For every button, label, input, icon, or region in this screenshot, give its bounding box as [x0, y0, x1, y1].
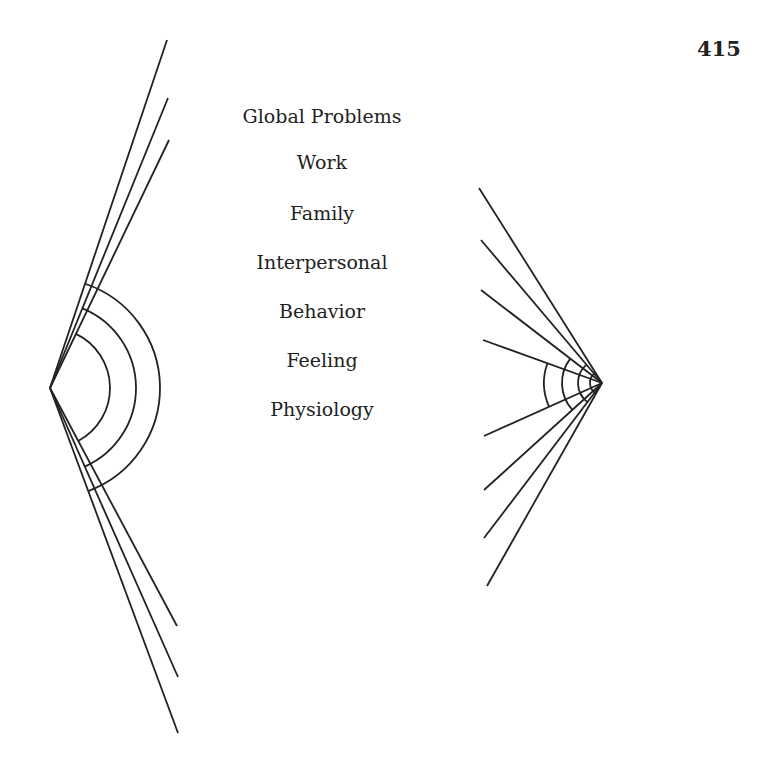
right-line [484, 383, 602, 538]
left-lower-line [50, 388, 178, 733]
left-arc [76, 334, 110, 441]
left-lower-line [50, 388, 177, 626]
funnel-diagram [0, 0, 764, 778]
right-line [479, 188, 602, 383]
right-line [481, 290, 602, 383]
right-arc [544, 363, 549, 406]
diagram-page: 415 Global ProblemsWorkFamilyInterperson… [0, 0, 764, 778]
right-line [487, 383, 602, 586]
left-upper-line [50, 40, 167, 388]
left-upper-line [50, 140, 169, 388]
left-lower-line [50, 388, 178, 677]
right-arc [562, 359, 572, 410]
right-line [484, 383, 602, 436]
